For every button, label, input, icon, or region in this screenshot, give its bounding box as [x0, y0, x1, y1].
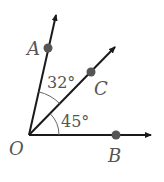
- point-a: [44, 44, 53, 53]
- arc-aoc: [39, 92, 60, 104]
- label-a: A: [25, 38, 40, 59]
- arc-cob: [50, 114, 59, 136]
- angle-label-cob: 45°: [61, 112, 89, 131]
- angle-label-aoc: 32°: [47, 73, 75, 92]
- label-o: O: [9, 138, 24, 159]
- point-c: [87, 68, 96, 77]
- point-b: [112, 131, 121, 140]
- label-c: C: [94, 78, 108, 99]
- angle-diagram: A C B O 32° 45°: [0, 0, 164, 182]
- label-b: B: [107, 145, 121, 166]
